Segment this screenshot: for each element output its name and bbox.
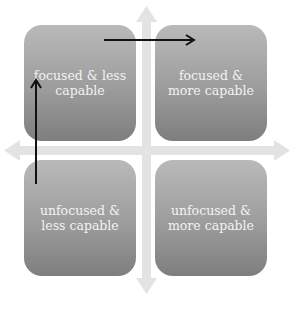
- progress-arrows: [0, 0, 297, 310]
- arrow-up-icon: [31, 80, 41, 184]
- arrow-right-icon: [104, 35, 194, 45]
